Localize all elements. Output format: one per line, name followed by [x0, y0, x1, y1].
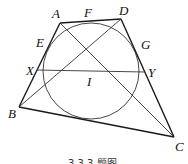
label-f: F [83, 5, 93, 20]
label-d: D [118, 3, 129, 18]
segment-xy [37, 70, 145, 72]
geometry-figure: A F D E G X Y I B C 3.3.3 题图 [0, 0, 188, 164]
label-g: G [141, 37, 151, 52]
segment-bd [19, 19, 121, 107]
segment-ac [60, 23, 174, 137]
side-bc [19, 107, 174, 137]
label-c: C [175, 139, 184, 154]
label-x: X [25, 63, 35, 78]
label-i: I [86, 74, 92, 89]
label-a: A [51, 6, 60, 21]
figure-caption: 3.3.3 题图 [68, 158, 117, 164]
label-y: Y [148, 65, 157, 80]
label-e: E [35, 35, 44, 50]
label-b: B [8, 106, 16, 121]
